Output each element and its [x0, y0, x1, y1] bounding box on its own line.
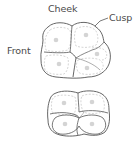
lower-molar [48, 91, 110, 136]
cusp-dot [62, 101, 67, 106]
cusp-dot [84, 33, 89, 38]
cusp-dot [90, 100, 95, 105]
cusp-dot [57, 62, 62, 67]
cusp-dot [95, 52, 100, 57]
tooth-diagram [0, 0, 136, 148]
cusp-dot [54, 38, 59, 43]
cusp-dot [85, 66, 90, 71]
cusp-dot [63, 122, 68, 127]
cusp-dot [90, 122, 95, 127]
upper-molar [41, 22, 111, 78]
